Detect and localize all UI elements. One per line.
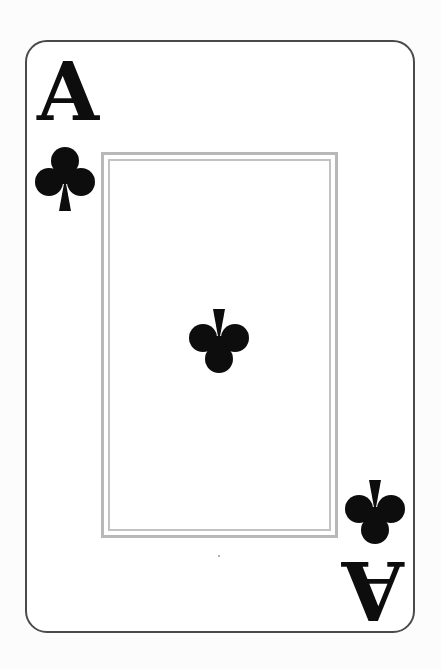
card-table: A A	[0, 0, 441, 669]
club-suit-icon-center	[189, 308, 249, 376]
club-suit-icon-top-left	[35, 144, 95, 212]
corner-rank-bottom-right: A	[346, 550, 404, 630]
corner-rank-top-left: A	[37, 52, 95, 132]
print-speck	[218, 555, 220, 557]
club-suit-icon-bottom-right	[345, 479, 405, 547]
